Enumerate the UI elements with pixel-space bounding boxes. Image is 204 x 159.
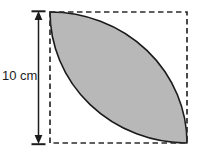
dimension-arrowhead-top bbox=[35, 11, 43, 20]
dimension-arrowhead-bottom bbox=[35, 135, 43, 144]
geometry-figure: 10 cm bbox=[0, 0, 204, 159]
dimension-label: 10 cm bbox=[2, 66, 36, 85]
shaded-lens-region bbox=[50, 12, 187, 143]
